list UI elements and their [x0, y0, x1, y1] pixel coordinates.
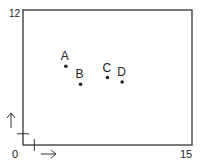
- point-label: D: [117, 65, 126, 79]
- point-marker: [106, 76, 110, 80]
- point-marker: [64, 64, 68, 68]
- point-a: A: [61, 49, 69, 68]
- right-arrow-icon: [41, 150, 56, 158]
- point-label: C: [103, 61, 112, 75]
- point-b: B: [75, 67, 83, 86]
- point-label: B: [75, 67, 83, 81]
- point-marker: [79, 82, 83, 86]
- point-marker: [120, 80, 124, 84]
- point-d: D: [117, 65, 126, 84]
- x-max-label: 15: [180, 148, 192, 160]
- point-label: A: [61, 49, 69, 63]
- points-layer: ABCD: [61, 49, 126, 86]
- up-arrow-icon: [7, 113, 15, 128]
- origin-label: 0: [12, 148, 18, 160]
- coordinate-grid-diagram: 0 15 12 ABCD: [0, 0, 208, 166]
- point-c: C: [103, 61, 112, 80]
- y-max-label: 12: [9, 8, 21, 19]
